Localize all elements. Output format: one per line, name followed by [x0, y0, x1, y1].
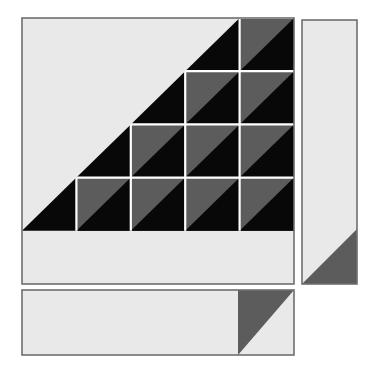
triangle-cell [185, 71, 239, 124]
triangle-cell [240, 178, 294, 231]
triangle-cell [185, 124, 239, 177]
triangle-cell [131, 178, 185, 231]
triangle-cell [240, 18, 294, 71]
triangle-cell [76, 178, 130, 231]
triangle-cell [240, 71, 294, 124]
triangle-cell [185, 178, 239, 231]
main-square [22, 18, 294, 284]
triangle-cell [131, 124, 185, 177]
bottom-panel [22, 290, 294, 355]
triangle-cell [240, 124, 294, 177]
figure-canvas [0, 0, 374, 370]
right-side-panel [302, 20, 357, 284]
figure-root [0, 0, 374, 370]
